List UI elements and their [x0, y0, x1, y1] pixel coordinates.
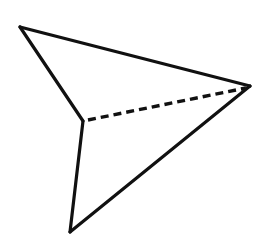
figure-canvas	[0, 0, 263, 248]
dart-shape-drawing	[0, 0, 263, 248]
